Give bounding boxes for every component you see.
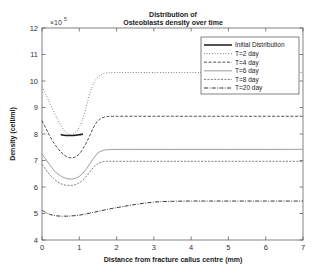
x-tick-label: 2: [114, 243, 118, 252]
x-tick-label: 4: [189, 243, 193, 252]
y-tick-label: 12: [30, 24, 38, 33]
y-exponent-prefix: ×10: [50, 19, 62, 26]
legend-label-t-2-day[interactable]: T=2 day: [235, 50, 259, 58]
legend-label-t-4-day[interactable]: T=4 day: [235, 59, 259, 67]
chart-title-line1: Distribution of: [149, 11, 197, 18]
y-tick-label: 9: [34, 103, 38, 112]
y-tick-label: 11: [30, 50, 38, 59]
y-tick-label: 10: [30, 77, 38, 86]
x-tick-label: 0: [40, 243, 44, 252]
legend-label-initial-distribution[interactable]: Initial Distribution: [235, 41, 285, 48]
y-tick-label: 4: [34, 236, 38, 245]
x-tick-label: 7: [301, 243, 305, 252]
y-tick-label: 7: [34, 156, 38, 165]
y-tick-label: 6: [34, 183, 38, 192]
x-tick-label: 3: [152, 243, 156, 252]
chart-legend[interactable]: Initial DistributionT=2 dayT=4 dayT=6 da…: [201, 37, 299, 94]
y-tick-label: 8: [34, 130, 38, 139]
legend-label-t-20-day[interactable]: T=20 day: [235, 84, 263, 92]
legend-label-t-6-day[interactable]: T=6 day: [235, 67, 259, 75]
chart-svg: Distribution of Osteoblasts density over…: [0, 0, 315, 274]
x-tick-label: 1: [77, 243, 81, 252]
figure-container: Distribution of Osteoblasts density over…: [0, 0, 315, 274]
chart-title: Distribution of Osteoblasts density over…: [123, 11, 223, 27]
y-tick-label: 5: [34, 209, 38, 218]
y-exponent-label: ×10 5: [50, 16, 67, 26]
x-axis-label: Distance from fracture callus centre (mm…: [104, 256, 243, 264]
legend-label-t-8-day[interactable]: T=8 day: [235, 76, 259, 84]
y-exponent-power: 5: [64, 16, 67, 22]
chart-title-line2: Osteoblasts density over time: [123, 19, 223, 27]
x-tick-label: 5: [226, 243, 230, 252]
y-axis-label: Density (cell/ml): [9, 107, 17, 161]
x-tick-label: 6: [264, 243, 268, 252]
